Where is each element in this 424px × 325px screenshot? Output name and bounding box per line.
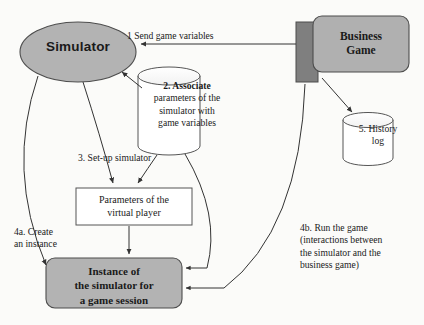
node-parameters	[76, 188, 192, 225]
edge-setup-simulator	[83, 82, 113, 183]
edge-associate-to-parameters	[138, 155, 157, 183]
node-associate-cylinder	[138, 67, 200, 155]
diagram-canvas: Simulator Business Game 2. Associate par…	[0, 0, 424, 325]
edge-run-game	[186, 84, 305, 288]
node-history-log	[343, 113, 393, 166]
edge-create-instance	[24, 76, 46, 265]
node-instance	[46, 258, 182, 308]
diagram-svg	[0, 0, 424, 325]
node-business-game	[296, 16, 409, 82]
edge-business-game-to-history-log	[322, 78, 352, 112]
node-simulator	[20, 22, 136, 82]
